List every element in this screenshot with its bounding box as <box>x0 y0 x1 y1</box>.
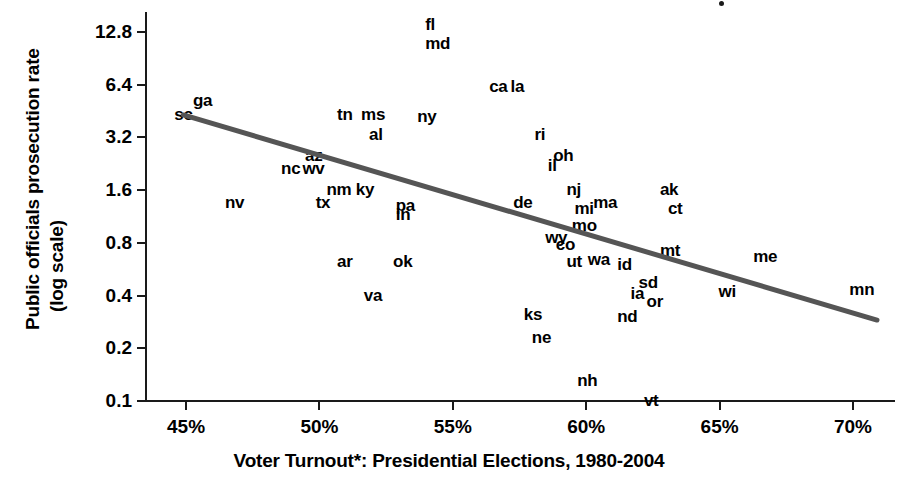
data-point-label-nj: nj <box>567 181 582 198</box>
x-tick-mark <box>318 401 320 410</box>
x-tick-mark <box>452 401 454 410</box>
data-point-label-nv: nv <box>225 194 244 211</box>
data-point-label-al: al <box>369 126 383 143</box>
data-point-label-nh: nh <box>577 372 597 389</box>
data-point-label-in: in <box>396 206 411 223</box>
y-tick-label: 12.8 <box>62 22 132 41</box>
x-axis-line <box>145 400 895 402</box>
data-point-label-ak: ak <box>660 181 678 198</box>
y-tick-label: 6.4 <box>62 75 132 94</box>
data-point-label-ma: ma <box>593 194 617 211</box>
data-point-label-ms: ms <box>361 106 385 123</box>
x-tick-mark <box>719 401 721 410</box>
data-point-label-ok: ok <box>393 253 412 270</box>
data-point-label-wi: wi <box>719 283 736 300</box>
scatter-chart-figure: Public officials prosecution rate (log s… <box>0 0 898 485</box>
y-tick-label: 1.6 <box>62 180 132 199</box>
data-point-label-mt: mt <box>660 242 680 259</box>
data-point-label-or: or <box>647 293 663 310</box>
y-tick-label: 0.4 <box>62 286 132 305</box>
y-tick-mark <box>137 189 146 191</box>
data-point-label-me: me <box>753 248 777 265</box>
y-tick-label: 3.2 <box>62 127 132 146</box>
x-tick-label: 65% <box>685 416 755 438</box>
data-point-label-ca: ca <box>489 78 507 95</box>
y-tick-mark <box>137 242 146 244</box>
y-tick-mark <box>137 295 146 297</box>
y-tick-mark <box>137 31 146 33</box>
y-tick-label: 0.2 <box>62 338 132 357</box>
data-point-label-ri: ri <box>535 126 546 143</box>
cropped-title-remnant <box>719 1 724 6</box>
data-point-label-nd: nd <box>617 308 637 325</box>
x-tick-label: 60% <box>551 416 621 438</box>
data-point-label-mn: mn <box>849 281 874 298</box>
data-point-label-wv: wv <box>302 160 324 177</box>
data-point-label-tx: tx <box>316 194 331 211</box>
data-point-label-ar: ar <box>337 253 352 270</box>
data-point-label-ga: ga <box>193 92 212 109</box>
x-tick-label: 45% <box>151 416 221 438</box>
data-point-label-mi: mi <box>575 200 594 217</box>
data-point-label-id: id <box>617 256 632 273</box>
x-tick-label: 50% <box>284 416 354 438</box>
x-tick-label: 55% <box>418 416 488 438</box>
y-tick-label: 0.8 <box>62 233 132 252</box>
y-tick-mark <box>137 84 146 86</box>
data-point-label-vt: vt <box>644 392 659 409</box>
data-point-label-ny: ny <box>417 108 436 125</box>
y-tick-mark <box>137 136 146 138</box>
trendline <box>0 0 898 485</box>
x-tick-mark <box>185 401 187 410</box>
data-point-label-mo: mo <box>572 217 597 234</box>
x-tick-mark <box>585 401 587 410</box>
data-point-label-sc: sc <box>174 106 192 123</box>
data-point-label-ky: ky <box>356 181 374 198</box>
data-point-label-ne: ne <box>532 329 551 346</box>
data-point-label-de: de <box>513 194 532 211</box>
data-point-label-md: md <box>425 35 450 52</box>
y-tick-mark <box>137 347 146 349</box>
y-axis-title: Public officials prosecution rate (log s… <box>0 0 62 410</box>
x-tick-label: 70% <box>818 416 888 438</box>
data-point-label-va: va <box>364 287 382 304</box>
data-point-label-ia: ia <box>631 285 645 302</box>
x-axis-title: Voter Turnout*: Presidential Elections, … <box>0 450 898 472</box>
data-point-label-ks: ks <box>524 306 542 323</box>
data-point-label-tn: tn <box>337 106 352 123</box>
data-point-label-fl: fl <box>425 16 435 33</box>
data-point-label-il: il <box>548 157 557 174</box>
data-point-label-la: la <box>511 78 525 95</box>
x-tick-mark <box>852 401 854 410</box>
data-point-label-ct: ct <box>668 200 683 217</box>
data-point-label-nc: nc <box>281 160 300 177</box>
y-tick-label: 0.1 <box>62 391 132 410</box>
data-point-label-ut: ut <box>567 253 582 270</box>
data-point-label-co: co <box>556 236 575 253</box>
y-tick-mark <box>137 400 146 402</box>
y-axis-line <box>145 12 147 402</box>
y-axis-title-line-1: Public officials prosecution rate <box>22 48 44 330</box>
data-point-label-wa: wa <box>588 251 610 268</box>
